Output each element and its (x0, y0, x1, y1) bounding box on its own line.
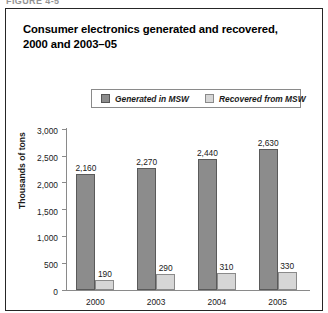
y-axis-tick-mark (62, 263, 66, 264)
bar-generated: 2,630 (259, 149, 278, 290)
figure-container: FIGURE 4-5 Consumer electronics generate… (0, 0, 328, 313)
bar-recovered: 190 (95, 280, 114, 290)
legend-entry: Recovered from MSW (205, 94, 306, 104)
legend-label: Recovered from MSW (219, 94, 306, 104)
x-axis-category-label: 2004 (208, 297, 227, 307)
legend-swatch-generated (101, 94, 110, 103)
y-axis-tick-mark (62, 156, 66, 157)
x-axis-category-label: 2005 (268, 297, 287, 307)
bar-value-label: 2,440 (197, 148, 218, 158)
y-axis-tick-label: 1,000 (37, 233, 58, 243)
y-axis-tick-label: 1,500 (37, 207, 58, 217)
bar-value-label: 330 (280, 261, 294, 271)
legend-entry: Generated in MSW (101, 94, 189, 104)
y-axis-tick: 0 (53, 281, 66, 299)
bar-group: 2,1601902000 (76, 129, 114, 290)
y-axis-tick: 3,000 (37, 120, 66, 138)
y-axis-tick-mark (62, 209, 66, 210)
figure-number-label: FIGURE 4-5 (6, 0, 60, 5)
y-axis-tick: 2,000 (37, 174, 66, 192)
bar-value-label: 310 (219, 262, 233, 272)
bar-generated: 2,270 (137, 168, 156, 290)
y-axis-title: Thousands of tons (17, 132, 27, 209)
bar-value-label: 2,630 (258, 138, 279, 148)
bar-group: 2,6303302005 (259, 129, 297, 290)
x-axis-category-label: 2000 (86, 297, 105, 307)
chart-title: Consumer electronics generated and recov… (23, 22, 291, 52)
y-axis-tick-label: 3,000 (37, 126, 58, 136)
chart-legend: Generated in MSWRecovered from MSW (91, 89, 301, 108)
y-axis-tick: 2,500 (37, 147, 66, 165)
legend-label: Generated in MSW (115, 94, 189, 104)
bar-group: 2,2702902003 (137, 129, 175, 290)
bar-generated: 2,440 (198, 159, 217, 290)
bar-value-label: 2,160 (75, 163, 96, 173)
legend-swatch-recovered (205, 94, 214, 103)
y-axis-tick-label: 2,000 (37, 180, 58, 190)
y-axis-tick-mark (62, 182, 66, 183)
plot-area: 05001,0001,5002,0002,5003,0002,160190200… (66, 129, 309, 290)
bar-recovered: 310 (217, 273, 236, 290)
bar-group: 2,4403102004 (198, 129, 236, 290)
bar-value-label: 2,270 (136, 157, 157, 167)
y-axis-tick-mark (62, 129, 66, 130)
bar-generated: 2,160 (76, 174, 95, 290)
y-axis-tick-label: 2,500 (37, 153, 58, 163)
y-axis-tick: 1,000 (37, 227, 66, 245)
bar-value-label: 190 (98, 269, 112, 279)
y-axis-tick-mark (62, 290, 66, 291)
y-axis-tick: 1,500 (37, 201, 66, 219)
bar-recovered: 330 (278, 272, 297, 290)
y-axis-tick-mark (62, 236, 66, 237)
bar-value-label: 290 (159, 263, 173, 273)
y-axis-tick-label: 500 (44, 260, 58, 270)
x-axis-category-label: 2003 (147, 297, 166, 307)
chart-panel: Consumer electronics generated and recov… (5, 8, 323, 311)
y-axis-tick-label: 0 (53, 287, 58, 297)
y-axis-tick: 500 (44, 254, 66, 272)
bar-recovered: 290 (156, 274, 175, 290)
x-axis-line (66, 290, 310, 291)
